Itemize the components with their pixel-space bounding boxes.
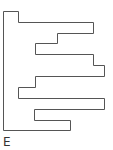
e-shape-outline — [4, 12, 105, 131]
outline-figure — [0, 0, 113, 150]
diagram-canvas: E — [0, 0, 113, 150]
figure-label: E — [3, 135, 11, 149]
